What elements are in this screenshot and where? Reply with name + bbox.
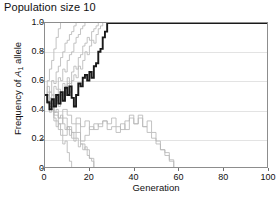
y-tick-label: 0.4	[6, 105, 44, 114]
x-tick-mark	[134, 168, 135, 171]
trajectory-lines	[45, 23, 267, 167]
x-axis-label: Generation	[44, 182, 268, 193]
plot-area	[44, 22, 268, 168]
x-tick-label: 20	[84, 172, 94, 182]
y-tick-label: 0.2	[6, 134, 44, 143]
x-tick-mark	[89, 168, 90, 171]
figure-genetic-drift: Population size 10 Frequency of A1 allel…	[0, 0, 276, 199]
x-tick-label: 0	[41, 172, 46, 182]
y-tick-label: 0.8	[6, 47, 44, 56]
x-tick-mark	[268, 168, 269, 171]
y-axis-ticks: 1.00.80.60.40.20	[0, 22, 44, 168]
x-tick-mark	[223, 168, 224, 171]
y-tick-label: 0.6	[6, 76, 44, 85]
x-tick-label: 80	[218, 172, 228, 182]
x-tick-mark	[44, 168, 45, 171]
chart-title: Population size 10	[4, 1, 96, 14]
x-tick-label: 60	[173, 172, 183, 182]
x-tick-mark	[178, 168, 179, 171]
replicate-trajectory	[45, 95, 174, 167]
x-tick-label: 40	[129, 172, 139, 182]
x-tick-label: 100	[260, 172, 275, 182]
y-tick-label: 0	[6, 164, 44, 173]
trajectories-svg	[45, 23, 267, 167]
y-tick-label: 1.0	[6, 18, 44, 27]
replicate-trajectory	[45, 95, 174, 167]
